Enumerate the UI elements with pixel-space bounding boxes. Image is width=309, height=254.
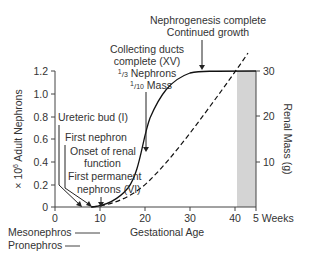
y-ticks-right (256, 71, 260, 162)
svg-text:30: 30 (263, 65, 275, 77)
svg-text:Ureteric bud (I): Ureteric bud (I) (58, 111, 128, 123)
svg-text:Nephrogenesis complete: Nephrogenesis complete (150, 14, 266, 26)
x-ticks (55, 207, 256, 211)
y-axis-label-left: × 106 Adult Nephrons (12, 89, 24, 188)
x-tick-labels: 0 10 20 30 40 5 Weeks (52, 212, 294, 224)
svg-text:Collecting ducts: Collecting ducts (110, 43, 184, 55)
svg-text:First permanent: First permanent (68, 170, 142, 182)
y-tick-labels-left: 1.2 1.0 0.8 0.6 0.4 0.2 0 (33, 65, 48, 213)
svg-text:10: 10 (263, 156, 275, 168)
y-tick-labels-right: 30 20 10 (263, 65, 275, 168)
svg-text:30: 30 (184, 212, 196, 224)
svg-text:1/3 Nephrons: 1/3 Nephrons (118, 67, 177, 79)
annotation-first-nephron: First nephron Onset of renal function (65, 131, 136, 207)
svg-text:1/10 Mass: 1/10 Mass (130, 79, 172, 91)
annotation-first-permanent: First permanent nephrons (VI) (68, 170, 142, 207)
svg-text:Pronephros: Pronephros (8, 239, 62, 251)
svg-text:1.0: 1.0 (33, 88, 48, 100)
svg-text:10: 10 (94, 212, 106, 224)
y-ticks-left (51, 71, 55, 207)
svg-text:0.8: 0.8 (33, 111, 48, 123)
svg-text:Continued growth: Continued growth (167, 26, 249, 38)
svg-text:Mesonephros: Mesonephros (8, 226, 72, 238)
svg-text:5 Weeks: 5 Weeks (253, 212, 294, 224)
svg-text:0: 0 (42, 201, 48, 213)
svg-text:0.4: 0.4 (33, 156, 48, 168)
svg-text:0: 0 (52, 212, 58, 224)
x-axis-label: Gestational Age (130, 226, 204, 238)
legend-pronephros: Pronephros (8, 239, 80, 251)
svg-text:0.2: 0.2 (33, 179, 48, 191)
chart-canvas: 1.2 1.0 0.8 0.6 0.4 0.2 0 30 20 10 0 10 … (0, 0, 309, 254)
svg-text:function: function (84, 157, 121, 169)
svg-text:40: 40 (229, 212, 241, 224)
svg-text:1.2: 1.2 (33, 65, 48, 77)
svg-text:0.6: 0.6 (33, 133, 48, 145)
svg-text:nephrons (VI): nephrons (VI) (77, 183, 141, 195)
legend-mesonephros: Mesonephros (8, 226, 100, 238)
y-axis-label-right: Renal Mass (g) (282, 103, 294, 174)
svg-text:Onset of renal: Onset of renal (70, 145, 136, 157)
svg-text:complete (XV): complete (XV) (114, 55, 181, 67)
svg-text:20: 20 (263, 110, 275, 122)
shaded-region (237, 71, 256, 207)
svg-text:First nephron: First nephron (65, 131, 127, 143)
svg-text:20: 20 (139, 212, 151, 224)
